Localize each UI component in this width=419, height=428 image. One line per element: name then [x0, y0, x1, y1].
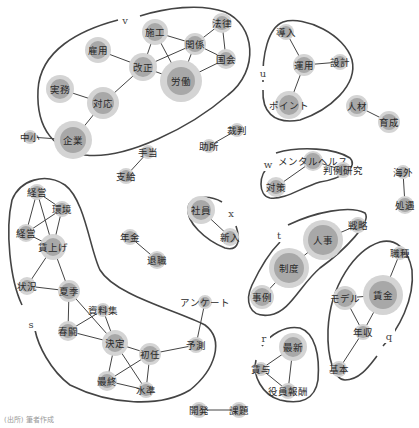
node-label: 夏季	[59, 286, 79, 297]
node-label: 退職	[147, 255, 167, 266]
group-label-x: x	[228, 208, 234, 219]
node-label: 雇用	[88, 45, 108, 56]
node-label: 改正	[133, 62, 153, 73]
node-label: 開発	[189, 405, 209, 416]
node-label: 課題	[229, 405, 249, 416]
nodes: 施工法律雇用関係改正国会労働実務対応企業中小導入運用設計ポイント人材育成裁判助所…	[16, 13, 415, 418]
node-label: 人事	[313, 235, 333, 246]
node-label: 企業	[63, 135, 83, 146]
node-label: 支給	[116, 171, 136, 182]
node-label: 基本	[329, 364, 349, 375]
node: 中小	[20, 130, 40, 144]
node-label: 制度	[279, 263, 299, 274]
node: 法律	[212, 13, 232, 33]
node: 状況	[17, 277, 37, 295]
node: 予測	[186, 337, 206, 353]
node: 課題	[229, 402, 249, 418]
node-label: 状況	[17, 281, 37, 292]
node: 初任	[139, 343, 161, 365]
node: 海外	[393, 165, 413, 179]
node-label: 国会	[216, 54, 236, 65]
node: 導入	[276, 24, 296, 40]
group-label-t: t	[277, 230, 281, 241]
node: 助所	[199, 139, 219, 153]
node-label: 春闘	[58, 326, 78, 337]
node-label: 施工	[145, 27, 165, 38]
node: 対策	[266, 177, 286, 197]
node-label: 年金	[120, 232, 140, 243]
group-label-u: u	[260, 68, 267, 79]
node: 改正	[129, 53, 157, 81]
group-label-w: w	[264, 159, 273, 170]
node: 退職	[147, 251, 167, 269]
node-label: 資料集	[88, 305, 118, 316]
node: 企業	[54, 121, 92, 159]
node: 人材	[346, 95, 368, 117]
group-label-v: v	[121, 15, 128, 26]
node-label: 育成	[379, 117, 399, 128]
hull-s	[9, 179, 216, 402]
node-label: モデル	[330, 293, 360, 304]
node: 国会	[216, 49, 236, 69]
node: 人事	[303, 220, 343, 260]
node: 資料集	[88, 303, 118, 317]
node-label: 最新	[283, 342, 303, 353]
node: 環境	[52, 201, 72, 217]
node: 制度	[269, 248, 309, 288]
node: 雇用	[85, 37, 111, 63]
node-label: 人材	[347, 101, 367, 112]
node-label: 予測	[186, 340, 206, 351]
node: 決定	[102, 330, 128, 356]
node: アンケート	[180, 295, 230, 309]
node: 賃与	[251, 362, 271, 376]
node-label: 中小	[20, 132, 40, 143]
node-label: 決定	[105, 338, 125, 349]
group-label-q: q	[386, 331, 393, 342]
group-label-r: r	[262, 333, 267, 344]
node: 役員報酬	[268, 383, 308, 399]
node-label: 役員報酬	[268, 386, 308, 397]
node: 戦略	[348, 217, 368, 233]
node-label: 新入	[220, 232, 240, 243]
node-label: 裁判	[227, 125, 247, 136]
node: 裁判	[227, 123, 247, 137]
node: 賃金	[363, 275, 403, 315]
node-label: 経営	[27, 187, 47, 198]
hull-q	[328, 241, 412, 380]
node-label: 実務	[50, 84, 70, 95]
node: 開発	[189, 402, 209, 418]
node-label: 戦略	[348, 220, 368, 231]
node: 社員	[187, 196, 215, 224]
node-label: 賃金	[373, 290, 393, 301]
node: 事例	[250, 285, 274, 309]
node-label: 最終	[97, 376, 117, 387]
node: 支給	[116, 168, 136, 184]
node-label: 労働	[171, 76, 191, 87]
node: 施工	[142, 19, 168, 45]
node-label: 手当	[138, 147, 158, 158]
node: 水準	[136, 382, 156, 398]
node-label: 賃与	[251, 364, 271, 375]
node: 経営	[16, 224, 36, 242]
node: 職種	[390, 246, 410, 260]
node: 対応	[87, 87, 119, 119]
node: 手当	[138, 145, 158, 159]
node-label: 導入	[276, 27, 296, 38]
group-label-s: s	[28, 319, 33, 330]
node-label: アンケート	[180, 297, 230, 308]
node: 判例研究	[323, 162, 363, 178]
node-label: 法律	[212, 18, 232, 29]
node: 設計	[330, 54, 350, 70]
node-label: 賃上げ	[38, 242, 68, 253]
node-label: ポイント	[269, 100, 309, 111]
node: 関係	[184, 33, 206, 55]
node: 育成	[378, 111, 400, 133]
footer-source: (出所) 筆者作成	[4, 414, 54, 424]
node-label: 関係	[185, 39, 205, 50]
node: 夏季	[58, 280, 80, 302]
node-label: 職種	[390, 248, 410, 259]
node-label: 社員	[191, 205, 211, 216]
node-label: 水準	[136, 385, 156, 396]
node: 運用	[293, 54, 315, 76]
co-occurrence-network: 施工法律雇用関係改正国会労働実務対応企業中小導入運用設計ポイント人材育成裁判助所…	[0, 0, 419, 428]
